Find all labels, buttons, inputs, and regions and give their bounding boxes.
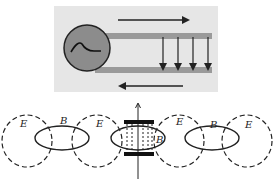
capacitor-plate-bottom [124,152,154,156]
bottom-wire [95,67,212,73]
label-e: E [244,119,253,130]
label-e: E [95,118,104,129]
label-b: B [59,115,67,126]
field-loops-diagram [2,103,272,179]
diagram-canvas: E B E B E B E [0,0,277,182]
label-b: B [209,119,217,130]
b-field-loop [35,126,89,150]
label-e: E [175,116,184,127]
transmission-line-diagram [54,6,218,92]
label-e: E [19,118,28,129]
capacitor-plate-top [124,120,154,124]
capacitor-field-lines [127,124,152,152]
ac-source [64,25,110,71]
top-wire [95,33,212,39]
label-b-center: B [155,134,163,145]
